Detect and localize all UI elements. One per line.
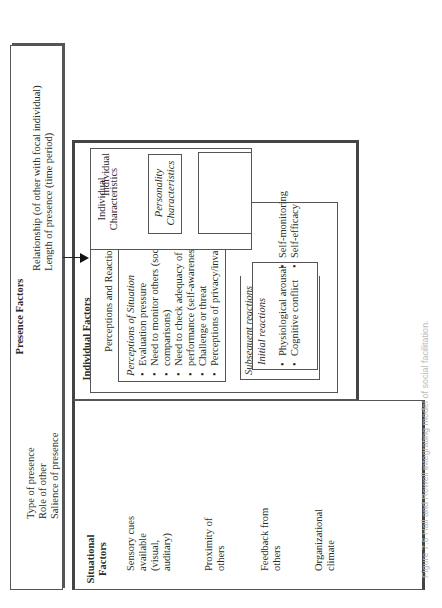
- perception-item: Challenge or threat: [197, 232, 209, 376]
- presence-item: Role of other: [37, 464, 49, 519]
- individual-characteristics-label: Individual Characteristics: [96, 148, 120, 250]
- situational-factors-title: Situational Factors: [85, 529, 109, 589]
- initial-reactions-col1: Physiological arousal Cognitive conflict: [277, 266, 301, 366]
- perception-item: performance (self-awareness): [185, 232, 197, 376]
- initial-reactions-col2: Self-monitoring Self-efficacy: [277, 191, 301, 268]
- situational-item-proximity: Proximity of others: [203, 518, 227, 571]
- perceptions-list: Evaluation pressure Need to monitor othe…: [137, 232, 221, 376]
- arrow-presence-to-perceptions: [63, 257, 81, 258]
- initial-reaction-item: Cognitive conflict: [289, 266, 301, 366]
- presence-item: Length of presence (time period): [43, 133, 55, 271]
- figure-caption: Figure 7.6 Hall and Rowell integrating m…: [420, 320, 430, 578]
- perception-item: Perceptions of privacy/invasion: [209, 232, 221, 376]
- arrow-head-icon: [80, 253, 89, 263]
- perception-item: Need to monitor others (social: [149, 232, 161, 376]
- situational-item-sensory: Sensory cues available (visual, auditary…: [125, 516, 173, 571]
- perceptions-of-situation-title: Perceptions of Situation: [125, 275, 137, 376]
- presence-item: Salience of presence: [49, 433, 61, 519]
- diagram-stage: Presence Factors Type of presence Role o…: [0, 0, 442, 608]
- presence-factors-box: Presence Factors Type of presence Role o…: [10, 45, 63, 590]
- situational-item-climate: Organizational climate: [313, 509, 337, 571]
- perception-item: Need to check adequacy of own: [173, 232, 185, 376]
- perception-item: Evaluation pressure: [137, 232, 149, 376]
- performance-capacity-box: [198, 152, 252, 234]
- initial-reaction-item: Self-monitoring: [277, 191, 289, 268]
- presence-item: Relationship (of other with focal indivi…: [31, 85, 43, 271]
- situational-item-feedback: Feedback from others: [259, 508, 283, 571]
- initial-reactions-title: Initial reactions: [256, 298, 268, 365]
- initial-reaction-item: Physiological arousal: [277, 266, 289, 366]
- personality-characteristics-label: Personality Characteristics: [153, 153, 177, 233]
- perception-item: comparisons): [161, 232, 173, 376]
- initial-reaction-item: Self-efficacy: [289, 191, 301, 268]
- situational-factors-box: Situational Factors Sensory cues availab…: [72, 400, 425, 590]
- presence-item: Type of presence: [25, 447, 37, 519]
- personality-characteristics-box: Personality Characteristics: [148, 154, 182, 234]
